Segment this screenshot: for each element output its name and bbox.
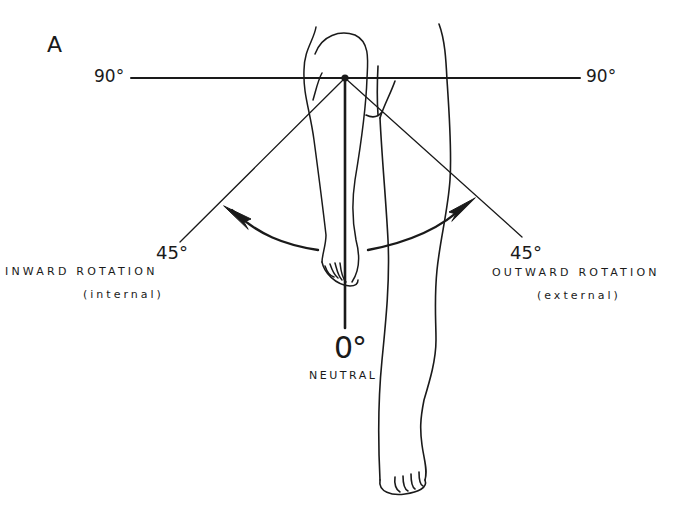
outward-rotation-caption: OUTWARD ROTATION	[492, 266, 660, 279]
panel-label: A	[47, 32, 62, 57]
inward-45-line	[180, 78, 345, 242]
inward-45-degree-label: 45°	[156, 242, 188, 263]
left-90-degree-label: 90°	[94, 66, 124, 86]
neutral-caption: NEUTRAL	[309, 369, 377, 382]
outward-45-degree-label: 45°	[510, 242, 542, 263]
outward-45-line	[345, 78, 522, 237]
outward-rotation-subcaption: (external)	[537, 289, 621, 302]
pivot-point	[341, 74, 348, 81]
inward-rotation-caption: INWARD ROTATION	[5, 265, 158, 278]
right-90-degree-label: 90°	[586, 66, 616, 86]
standing-leg-outline	[366, 24, 451, 494]
rotated-leg-outline	[304, 27, 368, 286]
outward-arrowhead-icon	[449, 198, 475, 221]
hip-rotation-diagram: A 90° 90° 45° INWARD ROTATION (internal)…	[0, 0, 697, 522]
neutral-0-degree-label: 0°	[334, 330, 366, 365]
inward-rotation-subcaption: (internal)	[83, 288, 164, 301]
inward-arrowhead-icon	[224, 206, 251, 229]
